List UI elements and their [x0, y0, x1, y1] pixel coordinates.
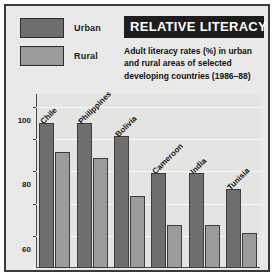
bar-tunisia-urban: [226, 189, 241, 268]
chart-title-bar: RELATIVE LITERACY: [124, 16, 264, 38]
chart-title-block: RELATIVE LITERACY Adult literacy rates (…: [124, 16, 264, 82]
bar-chile-urban: [39, 123, 54, 268]
legend-item-urban: Urban: [20, 18, 125, 38]
chart-frame: Urban Rural RELATIVE LITERACY Adult lite…: [4, 4, 270, 272]
legend-swatch-urban: [20, 18, 64, 38]
legend-label-rural: Rural: [74, 51, 98, 61]
bar-bolivia-urban: [114, 136, 129, 268]
chart-inner-area: Urban Rural RELATIVE LITERACY Adult lite…: [6, 6, 268, 270]
bar-india-rural: [205, 225, 220, 269]
relative-literacy-chart-figure: Urban Rural RELATIVE LITERACY Adult lite…: [0, 0, 274, 280]
bars-layer: [36, 94, 260, 268]
bar-tunisia-rural: [242, 233, 257, 268]
y-axis-tick-label: 80: [22, 180, 31, 189]
bar-chile-rural: [55, 152, 70, 268]
y-axis-tick-label: 100: [18, 115, 31, 124]
legend-item-rural: Rural: [20, 46, 125, 66]
chart-legend: Urban Rural: [20, 18, 125, 74]
bar-cameroon-rural: [167, 225, 182, 269]
y-axis-tick-label: 60: [22, 244, 31, 253]
legend-label-urban: Urban: [74, 23, 101, 33]
bar-india-urban: [189, 173, 204, 268]
plot-area: 20406080100 ChilePhilippinesBoliviaCamer…: [36, 94, 260, 268]
bar-bolivia-rural: [130, 196, 145, 269]
bar-cameroon-urban: [151, 173, 166, 268]
chart-title: RELATIVE LITERACY: [130, 20, 258, 33]
legend-swatch-rural: [20, 46, 64, 66]
bar-philippines-urban: [77, 123, 92, 268]
bar-philippines-rural: [93, 158, 108, 268]
chart-subtitle: Adult literacy rates (%) in urban and ru…: [124, 45, 264, 82]
